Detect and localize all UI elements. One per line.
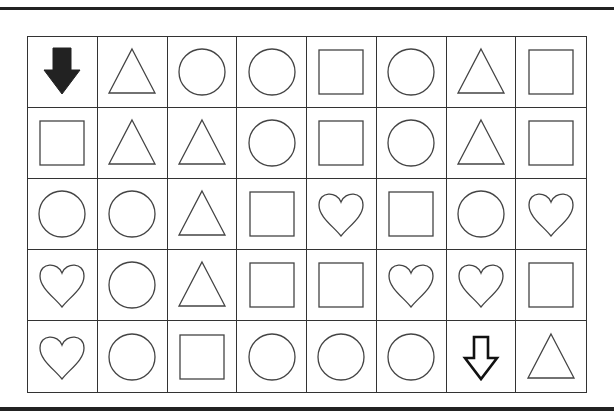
square-icon (315, 259, 367, 311)
grid-cell-r4-c1[interactable] (28, 250, 98, 321)
triangle-icon (176, 259, 228, 311)
grid-cell-r2-c7[interactable] (447, 108, 517, 179)
grid-cell-r4-c5[interactable] (307, 250, 377, 321)
grid-cell-r1-c6[interactable] (377, 37, 447, 108)
grid-cell-r3-c7[interactable] (447, 179, 517, 250)
grid-cell-r2-c1[interactable] (28, 108, 98, 179)
grid-cell-r4-c7[interactable] (447, 250, 517, 321)
triangle-icon (176, 188, 228, 240)
grid-cell-r1-c2[interactable] (98, 37, 168, 108)
grid-cell-r5-c1[interactable] (28, 321, 98, 392)
grid-cell-r5-c3[interactable] (168, 321, 238, 392)
circle-icon (385, 331, 437, 383)
grid-cell-r4-c8[interactable] (516, 250, 586, 321)
triangle-icon (525, 331, 577, 383)
circle-icon (106, 188, 158, 240)
square-icon (525, 259, 577, 311)
triangle-icon (455, 117, 507, 169)
grid-cell-r1-c1[interactable] (28, 37, 98, 108)
arrow-down-outline-icon (455, 331, 507, 383)
grid-cell-r5-c2[interactable] (98, 321, 168, 392)
grid-cell-r1-c8[interactable] (516, 37, 586, 108)
square-icon (385, 188, 437, 240)
grid-cell-r2-c4[interactable] (237, 108, 307, 179)
grid-cell-r3-c2[interactable] (98, 179, 168, 250)
grid-cell-r5-c4[interactable] (237, 321, 307, 392)
grid-cell-r2-c3[interactable] (168, 108, 238, 179)
grid-cell-r5-c6[interactable] (377, 321, 447, 392)
circle-icon (385, 46, 437, 98)
grid-cell-r4-c4[interactable] (237, 250, 307, 321)
grid-cell-r1-c7[interactable] (447, 37, 517, 108)
square-icon (315, 46, 367, 98)
circle-icon (385, 117, 437, 169)
grid-cell-r4-c2[interactable] (98, 250, 168, 321)
grid-cell-r4-c6[interactable] (377, 250, 447, 321)
shape-grid (27, 36, 587, 393)
top-rule (0, 7, 614, 10)
square-icon (246, 188, 298, 240)
circle-icon (176, 46, 228, 98)
grid-cell-r1-c5[interactable] (307, 37, 377, 108)
grid-cell-r2-c2[interactable] (98, 108, 168, 179)
grid-cell-r3-c6[interactable] (377, 179, 447, 250)
square-icon (315, 117, 367, 169)
square-icon (246, 259, 298, 311)
grid-cell-r1-c4[interactable] (237, 37, 307, 108)
triangle-icon (106, 117, 158, 169)
heart-icon (36, 331, 88, 383)
grid-cell-r3-c5[interactable] (307, 179, 377, 250)
grid-cell-r2-c6[interactable] (377, 108, 447, 179)
grid-cell-r3-c3[interactable] (168, 179, 238, 250)
circle-icon (246, 117, 298, 169)
circle-icon (106, 331, 158, 383)
circle-icon (36, 188, 88, 240)
heart-icon (455, 259, 507, 311)
grid-cell-r5-c5[interactable] (307, 321, 377, 392)
heart-icon (315, 188, 367, 240)
heart-icon (385, 259, 437, 311)
grid-cell-r5-c7[interactable] (447, 321, 517, 392)
triangle-icon (106, 46, 158, 98)
grid-cell-r3-c4[interactable] (237, 179, 307, 250)
grid-cell-r3-c1[interactable] (28, 179, 98, 250)
bottom-rule (0, 407, 614, 411)
heart-icon (525, 188, 577, 240)
circle-icon (246, 46, 298, 98)
grid-cell-r4-c3[interactable] (168, 250, 238, 321)
square-icon (525, 117, 577, 169)
grid-cell-r1-c3[interactable] (168, 37, 238, 108)
grid-cell-r2-c8[interactable] (516, 108, 586, 179)
square-icon (176, 331, 228, 383)
arrow-down-filled-icon (36, 46, 88, 98)
grid-cell-r5-c8[interactable] (516, 321, 586, 392)
circle-icon (455, 188, 507, 240)
square-icon (36, 117, 88, 169)
grid-cell-r3-c8[interactable] (516, 179, 586, 250)
heart-icon (36, 259, 88, 311)
circle-icon (246, 331, 298, 383)
grid-cell-r2-c5[interactable] (307, 108, 377, 179)
triangle-icon (176, 117, 228, 169)
square-icon (525, 46, 577, 98)
circle-icon (106, 259, 158, 311)
circle-icon (315, 331, 367, 383)
triangle-icon (455, 46, 507, 98)
